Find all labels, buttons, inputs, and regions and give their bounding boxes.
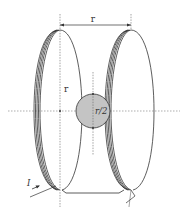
- right-vertical-axis-bottom: [129, 190, 131, 207]
- separation-dimension: [60, 24, 131, 27]
- current-label: I: [26, 178, 31, 188]
- radius-label: r: [64, 84, 69, 94]
- right-coil: [105, 30, 154, 190]
- sphere-radius-label: r/2: [95, 106, 107, 116]
- connecting-wire: [62, 190, 124, 193]
- separation-label: r: [91, 14, 96, 24]
- left-coil: [34, 30, 82, 190]
- helmholtz-coil-diagram: r r r/2 I: [0, 0, 188, 217]
- right-coil-outline: [131, 30, 154, 190]
